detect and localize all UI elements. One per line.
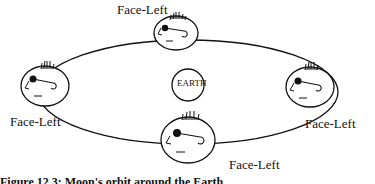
orbit-diagram-svg [0, 0, 375, 184]
orbit-diagram: EARTH Face-Left Face-Left Face-Left Face… [0, 0, 375, 184]
label-left: Face-Left [10, 114, 61, 130]
moon-face-left [21, 61, 69, 106]
label-right: Face-Left [305, 116, 356, 132]
moon-face-right [286, 62, 334, 107]
label-bottom: Face-Left [229, 157, 280, 173]
moon-face-bottom [161, 111, 215, 163]
label-top: Face-Left [117, 2, 168, 18]
figure-caption: Figure 12.3: Moon's orbit around the Ear… [0, 176, 223, 184]
earth-label: EARTH [177, 78, 206, 88]
